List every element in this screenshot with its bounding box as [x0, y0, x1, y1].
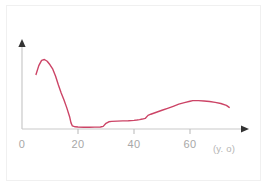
- x-axis-tick-label: 60: [184, 138, 197, 150]
- y-axis-arrow-icon: [18, 39, 25, 47]
- x-axis-tick-label: 20: [72, 138, 85, 150]
- x-axis-ticks: [78, 129, 190, 134]
- x-axis-tick-label: 40: [128, 138, 141, 150]
- line-chart: 0204060 (y. o): [0, 0, 267, 187]
- x-axis-tick-label: 0: [19, 138, 25, 150]
- data-series-line: [36, 59, 229, 127]
- x-axis-unit-label: (y. o): [213, 143, 235, 154]
- chart-page: 0204060 (y. o): [0, 0, 267, 187]
- x-axis-tick-labels: 0204060: [19, 138, 197, 150]
- chart-svg: 0204060 (y. o): [0, 0, 267, 187]
- x-axis-arrow-icon: [241, 125, 249, 132]
